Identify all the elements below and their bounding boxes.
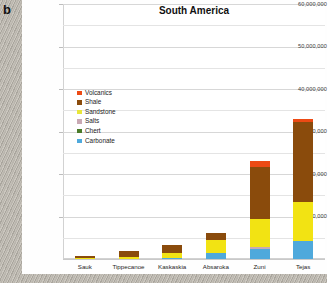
bar-segment-shale[interactable] xyxy=(75,256,95,259)
bar-group[interactable] xyxy=(119,4,139,259)
bar-segment-shale[interactable] xyxy=(162,245,182,254)
stacked-bar[interactable] xyxy=(250,4,270,259)
bar-segment-carbonate[interactable] xyxy=(206,253,226,259)
bar-group[interactable] xyxy=(250,4,270,259)
bar-segment-sandstone[interactable] xyxy=(250,219,270,247)
bar-group[interactable] xyxy=(293,4,313,259)
stacked-bar[interactable] xyxy=(293,4,313,259)
bar-segment-sandstone[interactable] xyxy=(75,258,95,259)
bar-segment-volcanics[interactable] xyxy=(250,161,270,167)
stacked-bar[interactable] xyxy=(75,4,95,259)
stacked-bar[interactable] xyxy=(206,4,226,259)
bar-segment-sandstone[interactable] xyxy=(119,257,139,259)
bar-segment-shale[interactable] xyxy=(206,233,226,240)
bar-segment-carbonate[interactable] xyxy=(250,249,270,259)
bar-segment-sandstone[interactable] xyxy=(162,253,182,258)
bar-segment-salts[interactable] xyxy=(250,247,270,249)
bar-segment-sandstone[interactable] xyxy=(293,202,313,240)
bar-group[interactable] xyxy=(75,4,95,259)
bar-segment-shale[interactable] xyxy=(293,122,313,202)
x-tick-label: Tejas xyxy=(273,263,332,270)
stacked-bar[interactable] xyxy=(119,4,139,259)
bar-group[interactable] xyxy=(162,4,182,259)
bar-segment-shale[interactable] xyxy=(119,251,139,257)
bar-segment-carbonate[interactable] xyxy=(293,241,313,259)
bar-group[interactable] xyxy=(206,4,226,259)
x-axis-baseline xyxy=(63,259,325,260)
stacked-bar[interactable] xyxy=(162,4,182,259)
bar-segment-volcanics[interactable] xyxy=(293,119,313,122)
bars-container xyxy=(63,4,325,259)
bar-segment-sandstone[interactable] xyxy=(206,240,226,253)
panel-label: b xyxy=(3,2,11,17)
bar-segment-carbonate[interactable] xyxy=(162,258,182,259)
bar-segment-shale[interactable] xyxy=(250,167,270,218)
